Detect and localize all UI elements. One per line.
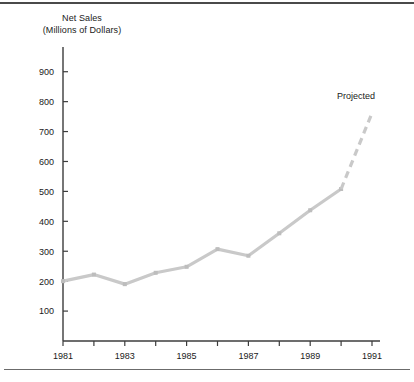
axis-title-line-1: Net Sales	[12, 12, 152, 24]
y-axis-tick-label: 200	[39, 277, 54, 287]
y-axis-tick-label: 700	[39, 127, 54, 137]
chart-figure: Net Sales (Millions of Dollars) Projecte…	[0, 0, 414, 382]
y-axis-tick-label: 500	[39, 187, 54, 197]
data-point-marker	[123, 282, 127, 286]
data-point-marker	[308, 208, 312, 212]
data-point-marker	[216, 247, 220, 251]
series-line-actual	[63, 189, 341, 284]
chart-plot-area: 1002003004005006007008009001981198319851…	[0, 0, 414, 382]
axis-title-line-2: (Millions of Dollars)	[12, 24, 152, 36]
data-point-marker	[154, 271, 158, 275]
data-point-marker	[92, 273, 96, 277]
y-axis-tick-label: 100	[39, 306, 54, 316]
data-point-marker	[246, 254, 250, 258]
chart-axis-title: Net Sales (Millions of Dollars)	[12, 12, 152, 36]
bottom-rule	[4, 369, 410, 370]
data-point-marker	[61, 279, 65, 283]
top-rule	[0, 2, 414, 4]
x-axis-tick-label: 1991	[362, 351, 382, 361]
y-axis-tick-label: 400	[39, 217, 54, 227]
x-axis-tick-label: 1989	[300, 351, 320, 361]
x-axis-tick-label: 1981	[53, 351, 73, 361]
series-line-projected	[341, 113, 372, 189]
y-axis-tick-label: 300	[39, 247, 54, 257]
data-point-marker	[185, 265, 189, 269]
x-axis-tick-label: 1985	[177, 351, 197, 361]
y-axis-tick-label: 600	[39, 157, 54, 167]
y-axis-tick-label: 900	[39, 67, 54, 77]
data-point-marker	[277, 231, 281, 235]
y-axis-tick-label: 800	[39, 97, 54, 107]
x-axis-tick-label: 1983	[115, 351, 135, 361]
projected-annotation-label: Projected	[337, 91, 375, 101]
x-axis-tick-label: 1987	[238, 351, 258, 361]
